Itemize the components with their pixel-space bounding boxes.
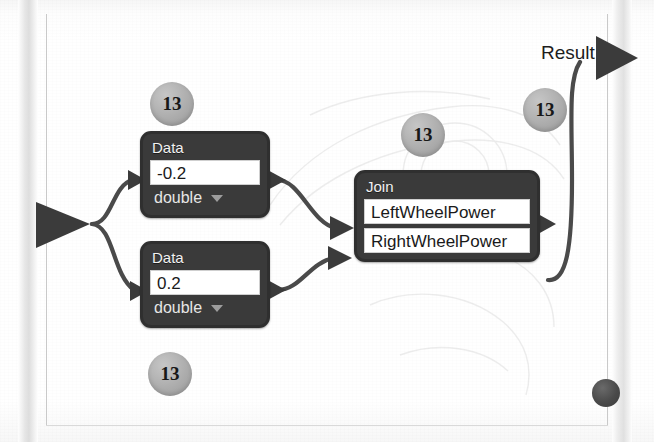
node-data-1[interactable]: Data -0.2 double <box>140 131 270 218</box>
data-1-type-label: double <box>154 187 202 209</box>
node-data-2[interactable]: Data 0.2 double <box>140 241 270 328</box>
node-data-2-title: Data <box>150 249 260 270</box>
dot-marker <box>592 379 620 407</box>
graph-output-label: Result <box>541 42 595 64</box>
annotation-badge-1: 13 <box>150 82 194 126</box>
chevron-down-icon <box>211 195 223 202</box>
chevron-down-icon <box>211 305 223 312</box>
page-texture <box>0 0 654 442</box>
annotation-badge-4: 13 <box>148 352 192 396</box>
join-field-left-wheel-power[interactable]: LeftWheelPower <box>364 199 530 224</box>
node-join-title: Join <box>364 178 530 199</box>
data-2-type-dropdown[interactable]: double <box>150 295 260 319</box>
node-data-1-title: Data <box>150 139 260 160</box>
annotation-badge-2: 13 <box>401 113 445 157</box>
join-field-right-wheel-power[interactable]: RightWheelPower <box>364 228 530 253</box>
data-2-value-input[interactable]: 0.2 <box>150 270 260 295</box>
data-1-value-input[interactable]: -0.2 <box>150 160 260 185</box>
data-2-type-label: double <box>154 297 202 319</box>
annotation-badge-3: 13 <box>523 88 567 132</box>
right-margin-rule <box>607 14 608 426</box>
node-join[interactable]: Join LeftWheelPower RightWheelPower <box>354 170 540 262</box>
bottom-margin-rule <box>46 425 608 426</box>
data-1-type-dropdown[interactable]: double <box>150 185 260 209</box>
dataflow-editor-canvas: Data -0.2 double Data 0.2 double Join Le… <box>0 0 654 442</box>
left-margin-rule <box>46 14 47 426</box>
